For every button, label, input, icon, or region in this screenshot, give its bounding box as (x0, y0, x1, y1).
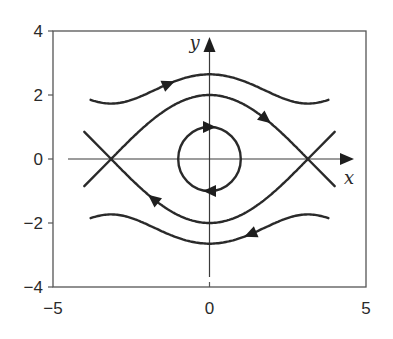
y-axis-arrowhead-icon (204, 37, 216, 52)
flow-arrow-icon (257, 110, 271, 123)
trajectory-right-separatrix-tails (308, 132, 335, 159)
flow-arrow-icon (148, 195, 162, 208)
y-tick-label: 0 (34, 150, 43, 169)
trajectory-left-separatrix-tails (84, 132, 111, 159)
trajectory-right-separatrix-tails (308, 159, 335, 186)
y-tick-label: 4 (34, 22, 43, 41)
x-tick-label: 0 (205, 299, 214, 318)
x-axis-arrowhead-icon (340, 153, 354, 165)
y-tick-label: 2 (34, 86, 43, 105)
y-tick-label: −2 (24, 214, 43, 233)
x-tick-label: 5 (361, 299, 370, 318)
y-tick-label: −4 (24, 278, 43, 297)
x-tick-label: −5 (43, 299, 62, 318)
x-axis-label: x (344, 167, 354, 188)
trajectory-left-separatrix-tails (84, 159, 111, 186)
y-axis-label: y (189, 32, 201, 53)
phase-portrait-figure: 420−2−4−505 x y (0, 0, 393, 339)
